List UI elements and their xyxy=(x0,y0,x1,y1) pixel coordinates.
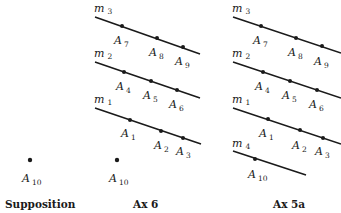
point-label-a9: A9 xyxy=(313,55,329,70)
point-label-a1: A1 xyxy=(120,127,136,142)
point-label-a8: A8 xyxy=(287,46,303,61)
caption-ax5a: Ax 5a xyxy=(272,198,305,210)
point-label-a2: A2 xyxy=(291,139,307,154)
point-a7 xyxy=(259,24,263,28)
diagram-canvas: A10 Supposition m3 A7 A8 A9 m2 A4 A5 A6 … xyxy=(0,0,341,213)
point-a3 xyxy=(321,136,325,140)
point-a10 xyxy=(253,157,257,161)
point-label-a8: A8 xyxy=(148,46,164,61)
point-a5 xyxy=(288,79,292,83)
point-label-a4: A4 xyxy=(115,80,131,95)
caption-supposition: Supposition xyxy=(5,198,76,210)
point-a1 xyxy=(128,118,132,122)
point-a8 xyxy=(155,36,159,40)
point-label-a5: A5 xyxy=(142,89,158,104)
point-a6 xyxy=(175,88,179,92)
point-a10 xyxy=(28,158,32,162)
point-label-a7: A7 xyxy=(113,34,129,49)
point-label-a6: A6 xyxy=(168,98,184,113)
panel-ax6: m3 A7 A8 A9 m2 A4 A5 A6 m1 A1 A2 A3 A10 … xyxy=(94,2,201,210)
point-a6 xyxy=(315,88,319,92)
caption-ax6: Ax 6 xyxy=(132,198,158,210)
line-label-m1: m1 xyxy=(94,93,112,107)
line-label-m3: m3 xyxy=(232,2,250,16)
point-label-a1: A1 xyxy=(258,127,274,142)
panel-supposition: A10 Supposition xyxy=(5,158,76,210)
line-m3 xyxy=(233,17,341,53)
point-a10 xyxy=(115,158,119,162)
point-a9 xyxy=(181,45,185,49)
point-label-a5: A5 xyxy=(281,89,297,104)
line-label-m4: m4 xyxy=(232,137,250,151)
point-a1 xyxy=(266,117,270,121)
point-a5 xyxy=(149,79,153,83)
point-label-a4: A4 xyxy=(254,80,270,95)
point-label-a3: A3 xyxy=(175,145,191,160)
line-label-m2: m2 xyxy=(232,47,250,61)
point-label-a2: A2 xyxy=(153,139,169,154)
point-label-a10: A10 xyxy=(21,172,42,187)
point-a2 xyxy=(298,128,302,132)
point-a2 xyxy=(159,129,163,133)
line-label-m3: m3 xyxy=(94,2,112,16)
point-a4 xyxy=(122,70,126,74)
point-label-a3: A3 xyxy=(314,145,330,160)
point-a8 xyxy=(294,36,298,40)
point-label-a7: A7 xyxy=(252,34,268,49)
point-label-a9: A9 xyxy=(174,55,190,70)
point-a4 xyxy=(261,70,265,74)
line-label-m1: m1 xyxy=(232,93,250,107)
line-m1 xyxy=(95,108,201,144)
point-a3 xyxy=(181,136,185,140)
panel-ax5a: m3 A7 A8 A9 m2 A4 A5 A6 m1 A1 A2 A3 m4 A… xyxy=(232,2,341,210)
line-label-m2: m2 xyxy=(94,47,112,61)
point-label-a10: A10 xyxy=(247,168,268,183)
point-a7 xyxy=(120,24,124,28)
point-a9 xyxy=(320,44,324,48)
point-label-a10: A10 xyxy=(108,172,129,187)
line-m4 xyxy=(233,151,306,175)
point-label-a6: A6 xyxy=(308,98,324,113)
